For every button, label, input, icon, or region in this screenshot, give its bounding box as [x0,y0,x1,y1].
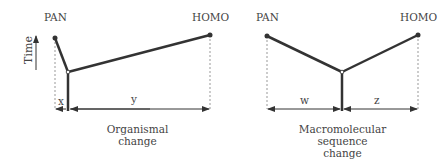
caption-line: sequence [290,135,395,147]
right-caption: Macromolecular sequence change [290,123,395,159]
x-label: x [58,95,64,107]
time-axis-label: Time [22,32,36,68]
caption-line: Organismal [90,123,185,135]
left-homo-label: HOMO [192,11,229,23]
pan-branch [267,36,342,72]
homo-node [416,33,421,38]
left-pan-label: PAN [44,11,67,23]
left-caption: Organismal change [90,123,185,147]
right-tree [265,33,421,112]
pan-node [53,36,58,41]
pan-node [265,34,270,39]
ancestor-node [340,70,344,74]
w-label: w [300,94,309,106]
z-label: z [374,94,380,106]
caption-line: change [290,147,395,159]
right-pan-label: PAN [256,11,279,23]
homo-node [208,33,213,38]
y-label: y [131,93,137,105]
homo-branch [68,35,210,72]
ancestor-node [66,70,70,74]
caption-line: change [90,135,185,147]
right-homo-label: HOMO [400,11,437,23]
caption-line: Macromolecular [290,123,395,135]
homo-branch [342,35,418,72]
pan-branch [55,38,68,72]
